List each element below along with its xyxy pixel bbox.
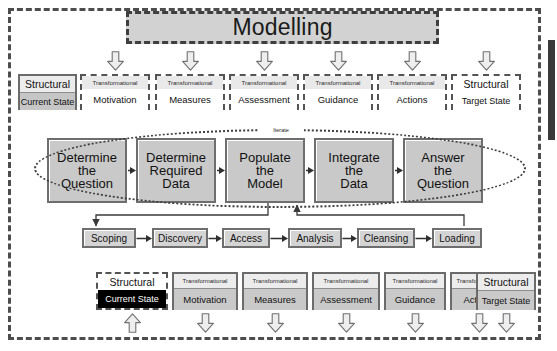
down-arrow-icon [329, 51, 348, 71]
card-body-label: Assessment [314, 288, 378, 310]
card-header: Transformational [386, 274, 444, 288]
card-assessment[interactable]: TransformationalAssessment [229, 74, 299, 110]
card-header: Structural [98, 274, 166, 290]
card-header: Transformational [244, 274, 306, 288]
flow-arrow-icon [216, 166, 225, 175]
card-target-state[interactable]: StructuralTarget State [476, 272, 536, 310]
modelling-title-banner: Modelling [126, 11, 439, 44]
card-body-label: Current State [20, 92, 75, 110]
card-header: Transformational [305, 76, 371, 89]
diagram-canvas: Modelling StructuralCurrent StateTransfo… [0, 0, 557, 351]
down-arrow-icon [477, 51, 496, 71]
card-motivation[interactable]: TransformationalMotivation [172, 272, 238, 310]
card-guidance[interactable]: TransformationalGuidance [303, 74, 373, 110]
card-body-label: Target State [478, 290, 534, 310]
pipeline-arrow-icon [136, 234, 152, 243]
card-target-state[interactable]: StructuralTarget State [451, 74, 521, 110]
iterate-label: Iterate [258, 127, 304, 134]
process-box-label: DetermineRequiredData [146, 151, 206, 191]
card-header: Transformational [379, 76, 445, 89]
pipeline-box-scoping[interactable]: Scoping [82, 228, 136, 248]
card-guidance[interactable]: TransformationalGuidance [384, 272, 446, 310]
card-body-label: Guidance [386, 288, 444, 310]
down-arrow-icon [196, 313, 215, 333]
card-header: Transformational [314, 274, 378, 288]
flow-arrow-icon [305, 166, 314, 175]
card-motivation[interactable]: TransformationalMotivation [80, 74, 150, 110]
card-header: Transformational [157, 76, 223, 89]
process-box-answer-the-question[interactable]: AnswertheQuestion [403, 138, 483, 203]
card-current-state[interactable]: StructuralCurrent State [18, 74, 77, 110]
card-assessment[interactable]: TransformationalAssessment [312, 272, 380, 310]
card-measures[interactable]: TransformationalMeasures [242, 272, 308, 310]
process-box-determine-required-data[interactable]: DetermineRequiredData [136, 138, 216, 203]
pipeline-box-analysis[interactable]: Analysis [288, 228, 342, 248]
card-actions[interactable]: TransformationalActions [377, 74, 447, 110]
down-arrow-icon [406, 313, 425, 333]
process-box-label: AnswertheQuestion [417, 151, 469, 191]
down-arrow-icon [470, 313, 489, 333]
process-box-integrate-the-data[interactable]: IntegratetheData [314, 138, 394, 203]
down-arrow-icon [266, 313, 285, 333]
card-body-label: Current State [98, 290, 166, 308]
card-header: Structural [478, 274, 534, 290]
pipeline-box-loading[interactable]: Loading [432, 228, 482, 248]
card-header: Transformational [231, 76, 297, 89]
pipeline-arrow-icon [270, 234, 288, 243]
pipeline-arrow-icon [415, 234, 432, 243]
card-header: Transformational [82, 76, 148, 89]
card-body-label: Measures [244, 288, 306, 310]
card-measures[interactable]: TransformationalMeasures [155, 74, 225, 110]
process-box-label: PopulatetheModel [239, 151, 290, 191]
card-body-label: Guidance [305, 89, 371, 110]
down-arrow-icon [337, 313, 356, 333]
down-arrow-icon [403, 51, 422, 71]
page-title: Modelling [232, 16, 332, 39]
card-header: Structural [453, 76, 519, 92]
card-header: Structural [20, 76, 75, 92]
card-body-label: Motivation [82, 89, 148, 110]
process-box-label: DeterminetheQuestion [57, 151, 117, 191]
process-box-determine-the-question[interactable]: DeterminetheQuestion [47, 138, 127, 203]
card-current-state[interactable]: StructuralCurrent State [96, 272, 168, 310]
down-arrow-icon [255, 51, 274, 71]
process-box-label: IntegratetheData [328, 151, 379, 191]
pipeline-box-cleansing[interactable]: Cleansing [357, 228, 415, 248]
card-header: Transformational [174, 274, 236, 288]
down-arrow-icon [181, 51, 200, 71]
process-box-populate-the-model[interactable]: PopulatetheModel [225, 138, 305, 203]
card-body-label: Target State [453, 92, 519, 110]
right-edge-bar [548, 40, 555, 140]
flow-arrow-icon [394, 166, 403, 175]
pipeline-arrow-icon [208, 234, 222, 243]
pipeline-box-discovery[interactable]: Discovery [152, 228, 208, 248]
card-body-label: Motivation [174, 288, 236, 310]
up-arrow-icon [123, 313, 142, 333]
flow-arrow-icon [127, 166, 136, 175]
card-body-label: Actions [379, 89, 445, 110]
down-arrow-icon [497, 313, 516, 333]
card-body-label: Assessment [231, 89, 297, 110]
pipeline-box-access[interactable]: Access [222, 228, 270, 248]
down-arrow-icon [106, 51, 125, 71]
pipeline-arrow-icon [342, 234, 357, 243]
card-body-label: Measures [157, 89, 223, 110]
